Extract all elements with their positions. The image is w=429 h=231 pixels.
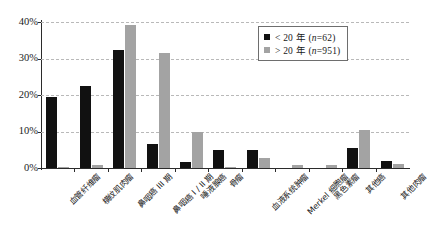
bar-group (108, 22, 141, 168)
y-axis-tick-label: 10% (0, 126, 38, 137)
bar-group (141, 22, 174, 168)
x-axis-category-label: 骨瘤 (228, 172, 245, 189)
y-axis-tick-label: 40% (0, 17, 38, 28)
x-axis-tick-mark (141, 168, 142, 172)
x-axis-category-label: 横纹肌肉瘤 (101, 172, 135, 206)
bar (58, 167, 69, 168)
bar-group (376, 22, 409, 168)
x-axis-category-label: 血液系统肿瘤 (271, 172, 311, 212)
bar-group (208, 22, 241, 168)
bar (159, 53, 170, 168)
y-axis-tick-label: 0% (0, 163, 38, 174)
y-axis-tick-label: 20% (0, 90, 38, 101)
bar (80, 86, 91, 168)
y-axis-tick-label: 30% (0, 53, 38, 64)
legend-label-under20: < 20 年 (n=62) (275, 30, 336, 44)
bar (292, 165, 303, 168)
x-axis-category-label: 其他肉瘤 (400, 172, 429, 201)
x-axis-category-label: 其他癌 (364, 172, 387, 195)
x-axis-tick-mark (309, 168, 310, 172)
legend-swatch-black-square-icon (264, 34, 270, 40)
x-axis-tick-mark (275, 168, 276, 172)
bar (213, 150, 224, 168)
bar-group (175, 22, 208, 168)
bar (192, 132, 203, 168)
bar (393, 164, 404, 168)
bar (147, 144, 158, 168)
x-axis-tick-mark (108, 168, 109, 172)
x-axis-tick-mark (242, 168, 243, 172)
bar (381, 161, 392, 168)
bar (180, 162, 191, 168)
legend-n-italic: n (312, 46, 317, 56)
x-axis-tick-mark (376, 168, 377, 172)
x-axis-category-label: 血管纤维瘤 (67, 172, 101, 206)
x-axis-tick-mark (175, 168, 176, 172)
bar (359, 130, 370, 168)
bar (92, 165, 103, 168)
plot-area (41, 22, 409, 168)
legend-swatch-gray-square-icon (264, 47, 270, 53)
bar-group (41, 22, 74, 168)
bar (46, 97, 57, 168)
legend-label-over20: > 20 年 (n=951) (275, 43, 340, 57)
bar-group (74, 22, 107, 168)
bar (125, 25, 136, 168)
x-axis-category-label: 鼻咽癌 III 期 (136, 172, 174, 210)
bar (326, 165, 337, 168)
legend-item-under20: < 20 年 (n=62) (264, 30, 340, 43)
legend-item-over20: > 20 年 (n=951) (264, 43, 340, 56)
bar (247, 150, 258, 168)
bar (113, 50, 124, 168)
legend-n-italic: n (312, 33, 317, 43)
bar (347, 148, 358, 168)
bar (225, 167, 236, 168)
x-axis-line (41, 168, 410, 169)
bar (259, 158, 270, 168)
x-axis-tick-mark (74, 168, 75, 172)
legend: < 20 年 (n=62) > 20 年 (n=951) (258, 26, 348, 61)
